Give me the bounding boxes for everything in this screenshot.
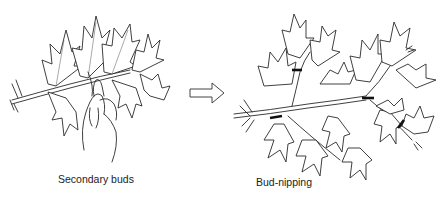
bud-nipping-illustration	[230, 0, 444, 198]
branch-with-hand-drawing	[0, 0, 200, 198]
secondary-buds-illustration	[0, 0, 200, 198]
bud-nipping-caption: Bud-nipping	[256, 176, 312, 188]
secondary-buds-caption: Secondary buds	[58, 173, 134, 185]
nipped-branch-drawing	[230, 0, 444, 198]
cut-mark	[270, 116, 282, 118]
hollow-arrow-icon	[186, 81, 226, 105]
